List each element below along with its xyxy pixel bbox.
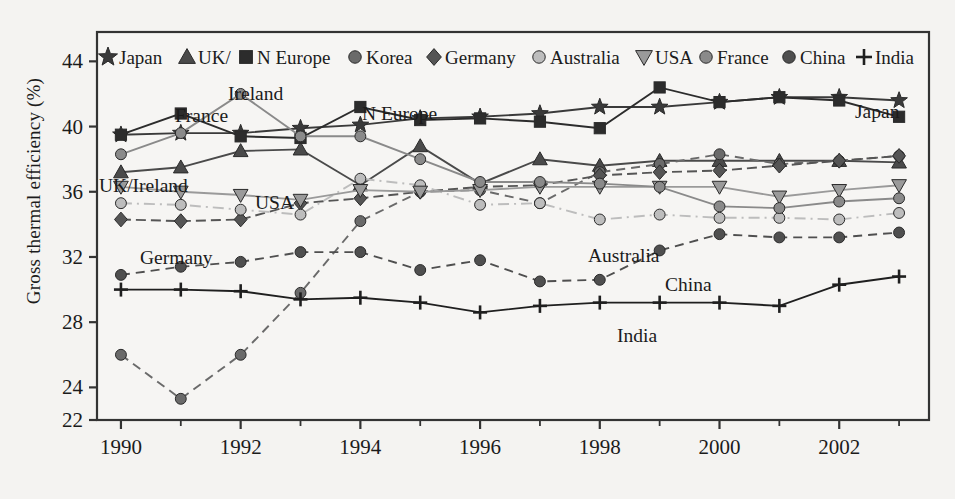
x-tick-label: 1998 bbox=[579, 435, 621, 459]
marker-circle bbox=[349, 51, 361, 63]
legend-label: France bbox=[717, 47, 769, 68]
marker-circle bbox=[175, 199, 186, 210]
marker-circle bbox=[355, 173, 366, 184]
marker-circle bbox=[534, 276, 545, 287]
marker-circle bbox=[714, 229, 725, 240]
legend-label: Japan bbox=[119, 47, 163, 68]
chart-figure: Gross thermal efficiency (%) 22242832364… bbox=[0, 0, 955, 499]
legend-item-india[interactable]: India bbox=[856, 47, 915, 68]
marker-circle bbox=[834, 232, 845, 243]
line-chart-canvas: 2224283236404419901992199419961998200020… bbox=[0, 0, 955, 499]
plot-frame bbox=[97, 32, 929, 420]
legend-item-usa[interactable]: USA bbox=[636, 47, 694, 68]
annotation-china: China bbox=[665, 274, 712, 295]
marker-circle bbox=[295, 247, 306, 258]
x-tick-label: 1992 bbox=[220, 435, 262, 459]
marker-circle bbox=[714, 212, 725, 223]
marker-circle bbox=[894, 207, 905, 218]
annotation-usa: USA bbox=[255, 192, 294, 213]
x-tick-label: 2002 bbox=[818, 435, 860, 459]
marker-circle bbox=[295, 131, 306, 142]
marker-circle bbox=[175, 393, 186, 404]
y-tick-label: 22 bbox=[62, 408, 83, 432]
marker-square bbox=[594, 123, 605, 134]
annotation-n-europe: N Europe bbox=[362, 103, 437, 124]
marker-circle bbox=[774, 232, 785, 243]
marker-circle bbox=[700, 51, 712, 63]
annotation-australia: Australia bbox=[588, 245, 660, 266]
marker-square bbox=[534, 116, 545, 127]
marker-circle bbox=[654, 181, 665, 192]
marker-square bbox=[240, 51, 253, 64]
legend-label: Australia bbox=[550, 47, 620, 68]
marker-circle bbox=[475, 177, 486, 188]
annotation-japan: Japan bbox=[855, 101, 900, 122]
marker-circle bbox=[594, 214, 605, 225]
annotation-france: France bbox=[175, 105, 228, 126]
marker-circle bbox=[235, 256, 246, 267]
marker-circle bbox=[783, 51, 795, 63]
marker-circle bbox=[894, 227, 905, 238]
marker-square bbox=[654, 82, 665, 93]
marker-circle bbox=[115, 269, 126, 280]
axis-layer: 2224283236404419901992199419961998200020… bbox=[62, 32, 929, 459]
y-tick-label: 28 bbox=[62, 310, 83, 334]
legend-label: Korea bbox=[366, 47, 413, 68]
marker-circle bbox=[534, 198, 545, 209]
marker-circle bbox=[834, 196, 845, 207]
annotation-ireland: Ireland bbox=[228, 83, 283, 104]
x-tick-label: 1990 bbox=[100, 435, 142, 459]
x-tick-label: 2000 bbox=[699, 435, 741, 459]
marker-square bbox=[115, 129, 126, 140]
marker-circle bbox=[355, 216, 366, 227]
marker-circle bbox=[714, 149, 725, 160]
legend-label: China bbox=[800, 47, 846, 68]
marker-circle bbox=[295, 209, 306, 220]
marker-circle bbox=[175, 128, 186, 139]
marker-circle bbox=[774, 203, 785, 214]
marker-square bbox=[474, 113, 485, 124]
marker-circle bbox=[534, 177, 545, 188]
legend-label: N Europe bbox=[257, 47, 330, 68]
marker-circle bbox=[834, 214, 845, 225]
legend-label: USA bbox=[655, 47, 693, 68]
marker-circle bbox=[415, 154, 426, 165]
y-tick-label: 36 bbox=[62, 180, 83, 204]
x-tick-label: 1996 bbox=[459, 435, 501, 459]
y-tick-label: 44 bbox=[62, 49, 84, 73]
legend-label: India bbox=[875, 47, 915, 68]
marker-circle bbox=[594, 178, 605, 189]
marker-circle bbox=[533, 51, 545, 63]
marker-circle bbox=[115, 198, 126, 209]
y-tick-label: 24 bbox=[62, 375, 84, 399]
marker-circle bbox=[115, 149, 126, 160]
marker-circle bbox=[355, 131, 366, 142]
marker-square bbox=[834, 95, 845, 106]
legend-label: Germany bbox=[445, 47, 516, 68]
marker-square bbox=[714, 97, 725, 108]
marker-circle bbox=[355, 247, 366, 258]
annotation-uk-ireland: UK/Ireland bbox=[99, 175, 188, 196]
y-tick-label: 40 bbox=[62, 115, 83, 139]
marker-circle bbox=[894, 193, 905, 204]
marker-circle bbox=[235, 349, 246, 360]
x-tick-label: 1994 bbox=[339, 435, 382, 459]
marker-square bbox=[774, 92, 785, 103]
marker-circle bbox=[475, 255, 486, 266]
marker-circle bbox=[714, 201, 725, 212]
annotation-germany: Germany bbox=[140, 247, 213, 268]
annotation-india: India bbox=[617, 325, 657, 346]
marker-circle bbox=[594, 274, 605, 285]
marker-circle bbox=[115, 349, 126, 360]
marker-square bbox=[235, 131, 246, 142]
legend-label: UK/ bbox=[198, 47, 231, 68]
marker-circle bbox=[654, 209, 665, 220]
y-tick-label: 32 bbox=[62, 245, 83, 269]
marker-circle bbox=[235, 204, 246, 215]
marker-circle bbox=[475, 199, 486, 210]
marker-circle bbox=[415, 265, 426, 276]
